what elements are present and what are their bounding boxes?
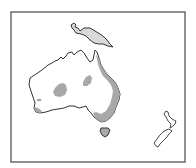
- map-canvas: [0, 0, 196, 168]
- shaded-west-dot: [37, 99, 42, 102]
- map-figure: [0, 0, 196, 168]
